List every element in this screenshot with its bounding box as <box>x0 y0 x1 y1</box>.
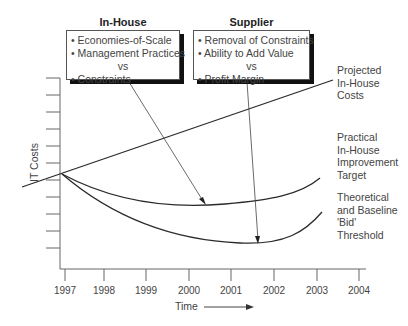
supplier-vs: vs <box>198 60 305 73</box>
projected-costs-label: Projected In-House Costs <box>337 64 381 102</box>
theoretical-baseline-label: Theoretical and Baseline 'Bid' Threshold <box>337 191 398 241</box>
x-tick-label: 2000 <box>178 285 200 296</box>
arrowhead-icon <box>199 197 206 205</box>
in-house-item: • Constraints <box>71 73 175 86</box>
time-arrow-head-icon <box>246 304 254 310</box>
projected-costs-line <box>22 80 333 187</box>
x-tick-label: 2004 <box>348 285 370 296</box>
supplier-title: Supplier <box>193 16 310 28</box>
in-house-box: • Economies-of-Scale • Management Practi… <box>66 30 180 80</box>
x-tick-label: 2001 <box>220 285 242 296</box>
practical-target-label: Practical In-House Improvement Target <box>337 131 398 181</box>
supplier-box: • Removal of Constraints • Ability to Ad… <box>193 30 310 80</box>
x-axis-ticks <box>65 269 359 281</box>
theoretical-baseline-curve <box>62 174 322 243</box>
x-tick-label: 2002 <box>263 285 285 296</box>
in-house-item: • Management Practices <box>71 47 175 60</box>
in-house-title: In-House <box>66 16 180 28</box>
y-axis-ticks <box>46 78 60 248</box>
x-axis-label: Time <box>175 300 198 312</box>
in-house-vs: vs <box>71 60 175 73</box>
x-tick-label: 1999 <box>135 285 157 296</box>
x-tick-label: 1997 <box>54 285 76 296</box>
practical-target-curve <box>62 174 320 205</box>
x-tick-label: 1998 <box>93 285 115 296</box>
in-house-arrow <box>129 82 203 201</box>
y-axis-label: IT Costs <box>28 143 40 182</box>
x-tick-label: 2003 <box>306 285 328 296</box>
supplier-item: • Profit Margin <box>198 73 305 86</box>
in-house-item: • Economies-of-Scale <box>71 34 175 47</box>
supplier-item: • Ability to Add Value <box>198 47 305 60</box>
supplier-item: • Removal of Constraints <box>198 34 305 47</box>
